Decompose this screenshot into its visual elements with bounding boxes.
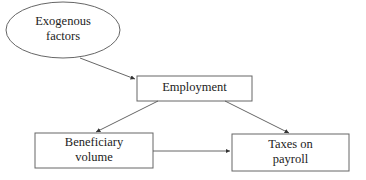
edge-exogenous-to-employment bbox=[80, 58, 135, 79]
beneficiary-line1: Beneficiary bbox=[35, 135, 153, 150]
taxes-line1: Taxes on bbox=[232, 137, 349, 152]
employment-text: Employment bbox=[137, 80, 252, 95]
taxes-on-payroll-label: Taxes on payroll bbox=[232, 137, 349, 167]
beneficiary-volume-label: Beneficiary volume bbox=[35, 135, 153, 165]
edge-employment-to-beneficiary bbox=[96, 101, 158, 132]
employment-label: Employment bbox=[137, 80, 252, 95]
beneficiary-line2: volume bbox=[35, 150, 153, 165]
exogenous-factors-label: Exogenous factors bbox=[6, 14, 120, 44]
exogenous-line1: Exogenous bbox=[6, 14, 120, 29]
exogenous-line2: factors bbox=[6, 29, 120, 44]
edge-employment-to-taxes bbox=[225, 101, 289, 133]
taxes-line2: payroll bbox=[232, 152, 349, 167]
